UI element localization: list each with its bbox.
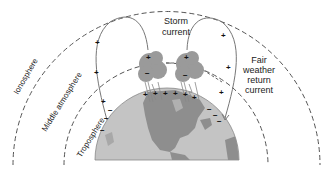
- middle-atmosphere-label: Middle atmosphere: [40, 70, 84, 133]
- fair-weather-label-line2: weather: [242, 65, 275, 75]
- ground-plus-6: +: [192, 93, 197, 102]
- ground-plus-2: +: [153, 89, 158, 98]
- left-loop-plus-2: +: [94, 68, 99, 77]
- cloud-left-minus: −: [145, 69, 150, 78]
- ground-plus-1: +: [143, 90, 148, 99]
- surface-minus-right-3: −: [217, 117, 222, 126]
- fair-weather-label-line3: return: [247, 75, 271, 85]
- ground-plus-5: +: [183, 90, 188, 99]
- cloud-right-minus: −: [183, 71, 188, 80]
- ground-plus-3: +: [163, 89, 168, 98]
- storm-cloud-left: [138, 51, 167, 82]
- storm-current-label-line2: current: [162, 27, 191, 37]
- fair-weather-label-line1: Fair: [251, 55, 267, 65]
- fair-weather-label-line4: current: [245, 85, 274, 95]
- cloud-left-plus: +: [146, 53, 151, 62]
- tropopause-segment: [203, 70, 222, 82]
- global-electric-circuit-diagram: + − + − + + + + + + + + + + + + − − − − …: [0, 0, 331, 177]
- right-loop-plus-2: +: [226, 63, 231, 72]
- right-loop-plus-3: +: [219, 88, 224, 97]
- cloud-right-plus: +: [184, 53, 189, 62]
- left-loop-plus-1: +: [95, 38, 100, 47]
- right-loop-plus-1: +: [221, 31, 226, 40]
- storm-cloud-right: [175, 51, 204, 82]
- surface-minus-left-1: −: [108, 106, 113, 115]
- storm-current-label-line1: Storm: [164, 16, 188, 26]
- ground-plus-4: +: [173, 89, 178, 98]
- ionosphere-label: Ionosphere: [12, 56, 40, 96]
- left-loop-plus-3: +: [101, 97, 106, 106]
- surface-minus-right-1: −: [207, 105, 212, 114]
